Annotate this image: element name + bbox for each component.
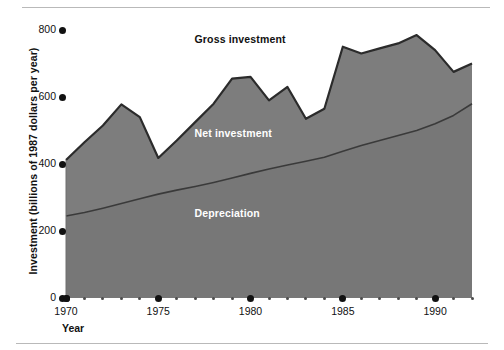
x-tick-label: 1980 <box>231 305 271 317</box>
x-tick-dot-major <box>155 295 162 302</box>
figure-panel: Investment (billions of 1987 dollars per… <box>0 0 504 350</box>
y-tick-label: 600 <box>0 90 56 102</box>
y-tick-dot <box>59 161 66 168</box>
x-tick-label: 1985 <box>323 305 363 317</box>
x-tick-label: 1970 <box>46 305 86 317</box>
y-tick-label: 400 <box>0 157 56 169</box>
x-tick-dot-minor <box>175 297 178 300</box>
x-tick-dot-minor <box>360 297 363 300</box>
y-tick-dot <box>59 27 66 34</box>
y-tick-dot <box>59 94 66 101</box>
x-tick-dot-minor <box>194 297 197 300</box>
x-axis-title: Year <box>62 322 84 334</box>
series-label-gross-investment: Gross investment <box>195 33 286 45</box>
series-label-net-investment: Net investment <box>195 127 272 139</box>
y-tick-label: 800 <box>0 23 56 35</box>
x-tick-dot-minor <box>286 297 289 300</box>
x-tick-label: 1975 <box>138 305 178 317</box>
x-tick-dot-minor <box>323 297 326 300</box>
x-tick-label: 1990 <box>415 305 455 317</box>
x-tick-dot-minor <box>83 297 86 300</box>
x-tick-dot-minor <box>397 297 400 300</box>
x-tick-dot-major <box>432 295 439 302</box>
x-tick-dot-major <box>339 295 346 302</box>
y-tick-label: 200 <box>0 224 56 236</box>
x-tick-dot-major <box>247 295 254 302</box>
x-axis-origin-dot <box>63 295 70 302</box>
y-tick-label: 0 <box>0 291 56 303</box>
x-tick-dot-minor <box>120 297 123 300</box>
x-tick-dot-minor <box>415 297 418 300</box>
x-tick-dot-minor <box>231 297 234 300</box>
series-label-depreciation: Depreciation <box>195 207 260 219</box>
x-tick-dot-minor <box>452 297 455 300</box>
x-tick-dot-minor <box>378 297 381 300</box>
x-tick-dot-minor <box>471 297 474 300</box>
investment-area-chart: Investment (billions of 1987 dollars per… <box>0 0 504 350</box>
x-tick-dot-minor <box>268 297 271 300</box>
x-tick-dot-minor <box>138 297 141 300</box>
x-tick-dot-minor <box>212 297 215 300</box>
y-tick-dot <box>59 228 66 235</box>
